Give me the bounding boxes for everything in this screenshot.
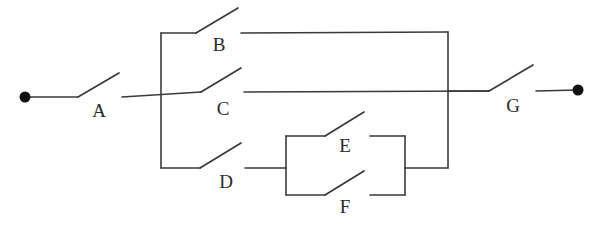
- wire-group: [25, 32, 578, 195]
- switch-g-blade[interactable]: [489, 65, 533, 91]
- switch-network-diagram: A B C D E F G: [0, 0, 591, 226]
- switch-d-blade[interactable]: [200, 143, 241, 168]
- switch-b-blade[interactable]: [196, 8, 238, 33]
- switch-label-c: C: [217, 98, 230, 119]
- switch-c-blade[interactable]: [201, 68, 241, 92]
- switch-blade-group: [78, 8, 533, 195]
- switch-a-blade[interactable]: [78, 73, 119, 97]
- circuit-schematic: A B C D E F G: [0, 0, 591, 226]
- switch-e-blade[interactable]: [325, 112, 364, 136]
- wire-right-lead: [536, 90, 578, 91]
- switch-label-f: F: [340, 196, 351, 217]
- switch-label-a: A: [92, 100, 106, 121]
- switch-f-blade[interactable]: [325, 171, 364, 195]
- right-terminal-dot[interactable]: [573, 85, 584, 96]
- switch-label-g: G: [506, 95, 520, 116]
- left-terminal-dot[interactable]: [20, 92, 31, 103]
- wire-branch-b-top-rail: [241, 32, 448, 33]
- switch-label-d: D: [219, 171, 233, 192]
- switch-label-b: B: [213, 34, 226, 55]
- switch-label-group: A B C D E F G: [92, 34, 520, 217]
- switch-label-e: E: [339, 135, 351, 156]
